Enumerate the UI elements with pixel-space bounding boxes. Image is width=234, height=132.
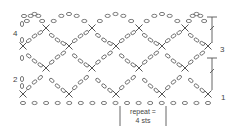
chain-stitch-icon <box>205 101 210 104</box>
chain-stitch-icon <box>83 62 89 68</box>
chain-stitch-icon <box>144 19 149 22</box>
chain-stitch-icon <box>83 75 89 81</box>
chain-stitch-icon <box>165 38 171 44</box>
chain-stitch-icon <box>198 14 203 17</box>
chain-stitch-icon <box>20 83 23 88</box>
chain-stitch-icon <box>170 33 176 39</box>
chain-stitch-icon <box>171 101 176 104</box>
chain-stitch-icon <box>119 53 125 59</box>
chain-stitch-icon <box>119 38 125 44</box>
chain-stitch-icon <box>136 101 141 104</box>
chain-stitch-icon <box>186 19 191 22</box>
single-crochet-icon <box>136 25 143 32</box>
single-crochet-icon <box>136 65 143 72</box>
chain-stitch-icon <box>176 30 182 36</box>
chain-stitch-icon <box>97 19 102 22</box>
chain-stitch-icon <box>49 78 55 84</box>
chain-stitch-icon <box>49 59 55 65</box>
chain-stitch-icon <box>121 14 126 17</box>
chain-stitch-icon <box>54 37 60 43</box>
chain-stitch-icon <box>36 14 41 17</box>
chain-stitch-icon <box>129 19 134 22</box>
chain-stitch-icon <box>159 101 164 104</box>
chain-stitch-icon <box>119 85 125 91</box>
crochet-chart: 4 3 2 1 repeat = 4 sts <box>0 0 234 132</box>
single-crochet-icon <box>43 65 50 72</box>
chain-stitch-icon <box>20 55 23 60</box>
chain-stitch-icon <box>193 83 199 89</box>
chain-stitch-icon <box>107 50 113 56</box>
chain-stitch-icon <box>153 41 159 47</box>
chain-stitch-icon <box>142 59 148 65</box>
chain-stitch-icon <box>148 101 153 104</box>
chain-stitch-icon <box>194 101 199 104</box>
chain-stitch-icon <box>26 38 32 44</box>
chain-stitch-icon <box>72 85 78 91</box>
chain-stitch-icon <box>20 76 23 81</box>
single-crochet-icon <box>182 25 189 32</box>
chain-stitch-icon <box>55 101 60 104</box>
single-crochet-icon <box>66 43 73 50</box>
chain-stitch-icon <box>24 19 29 22</box>
chain-stitch-icon <box>59 14 64 17</box>
turning-bracket-row-1-2 <box>207 58 217 90</box>
row-label-2: 2 <box>13 75 18 84</box>
chain-stitch-icon <box>60 50 66 56</box>
single-crochet-icon <box>20 43 27 50</box>
chain-stitch-icon <box>95 33 101 39</box>
chain-stitch-icon <box>167 14 172 17</box>
chain-stitch-icon <box>60 88 66 94</box>
chain-stitch-icon <box>74 14 79 17</box>
chain-stitch-icon <box>147 83 153 89</box>
single-crochet-icon <box>182 65 189 72</box>
chain-stitch-icon <box>26 53 32 59</box>
chain-stitch-icon <box>67 101 72 104</box>
chain-stitch-icon <box>130 75 136 81</box>
single-crochet-icon <box>20 91 27 98</box>
chain-stitch-icon <box>107 88 113 94</box>
chain-stitch-icon <box>147 37 153 43</box>
single-crochet-icon <box>43 25 50 32</box>
chain-stitch-icon <box>31 79 37 85</box>
chain-stitch-icon <box>54 54 60 60</box>
chain-stitch-icon <box>95 78 101 84</box>
chain-stitch-icon <box>199 88 205 94</box>
chain-stitch-icon <box>20 101 25 104</box>
chain-stitch-icon <box>95 59 101 65</box>
chain-stitch-icon <box>182 101 187 104</box>
chain-stitch-icon <box>40 19 45 22</box>
chain-stitch-icon <box>83 30 89 36</box>
stitch-rows <box>20 12 212 97</box>
chain-stitch-icon <box>153 50 159 56</box>
chain-stitch-icon <box>21 14 26 17</box>
chain-stitch-icon <box>49 33 55 39</box>
chain-stitch-icon <box>159 12 164 15</box>
chain-stitch-icon <box>77 33 83 39</box>
chain-stitch-icon <box>51 19 56 22</box>
single-crochet-icon <box>205 43 212 50</box>
repeat-label-line1: repeat = <box>130 108 156 116</box>
chain-stitch-icon <box>101 83 107 89</box>
single-crochet-icon <box>159 91 166 98</box>
chain-stitch-icon <box>66 12 71 15</box>
chain-stitch-icon <box>107 41 113 47</box>
row-label-3: 3 <box>220 45 225 54</box>
chain-stitch-icon <box>26 85 32 91</box>
chain-stitch-icon <box>101 37 107 43</box>
chain-stitch-icon <box>142 33 148 39</box>
chain-stitch-icon <box>153 88 159 94</box>
single-crochet-icon <box>113 91 120 98</box>
chain-stitch-icon <box>199 50 205 56</box>
chain-stitch-icon <box>37 30 43 36</box>
chain-stitch-icon <box>165 85 171 91</box>
chain-stitch-icon <box>142 78 148 84</box>
single-crochet-icon <box>159 43 166 50</box>
chain-stitch-icon <box>77 58 83 64</box>
chain-stitch-icon <box>60 41 66 47</box>
chain-stitch-icon <box>147 54 153 60</box>
chain-stitch-icon <box>130 62 136 68</box>
chain-stitch-icon <box>124 58 130 64</box>
chain-stitch-icon <box>152 14 157 17</box>
chain-stitch-icon <box>165 53 171 59</box>
chain-stitch-icon <box>113 101 118 104</box>
